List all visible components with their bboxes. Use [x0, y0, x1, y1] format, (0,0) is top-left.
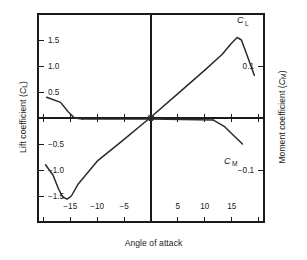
x-tick-label: 5 [176, 202, 181, 211]
x-tick-label: −10 [90, 202, 104, 211]
annotation-cl-label: CL [237, 15, 249, 26]
x-tick-label: −15 [63, 202, 77, 211]
y-axis-left-subscript: L [21, 84, 28, 88]
y-tick-label-left: 1.5 [48, 36, 60, 45]
x-tick-label: 10 [200, 202, 210, 211]
y-axis-left-symbol: C [18, 88, 28, 94]
y-axis-right-subscript: M [280, 73, 287, 79]
y-axis-right-title-text: Moment coefficient ( [277, 85, 287, 163]
series-CM-left [47, 97, 83, 119]
cm-label-subscript: M [232, 160, 238, 167]
y-axis-right-title: Moment coefficient (CM) [277, 47, 287, 187]
x-tick-label: −5 [119, 202, 129, 211]
y-axis-right-symbol: C [277, 79, 287, 85]
x-tick-label: 15 [227, 202, 237, 211]
y-tick-label-left: −0.5 [48, 140, 65, 149]
y-axis-right-paren: ) [277, 70, 287, 73]
y-tick-label-left: 1.0 [48, 62, 60, 71]
y-tick-label-left: 0.5 [48, 88, 60, 97]
plot-area: −15−10−551015−1.5−1.0−0.50.51.01.5−0.10.… [0, 0, 307, 260]
cm-label-text: C [224, 156, 231, 166]
y-tick-label-right: −0.1 [238, 166, 255, 175]
cl-label-text: C [237, 15, 244, 25]
x-axis-title: Angle of attack [0, 238, 307, 248]
series-CM-right [213, 120, 242, 144]
annotation-cm-label: CM [224, 156, 237, 167]
chart-figure: −15−10−551015−1.5−1.0−0.50.51.01.5−0.10.… [0, 0, 307, 260]
y-axis-left-title: Lift coefficient (CL) [18, 47, 28, 187]
y-axis-left-paren: ) [18, 81, 28, 84]
cl-label-subscript: L [245, 20, 249, 27]
y-axis-left-title-text: Lift coefficient ( [18, 94, 28, 153]
